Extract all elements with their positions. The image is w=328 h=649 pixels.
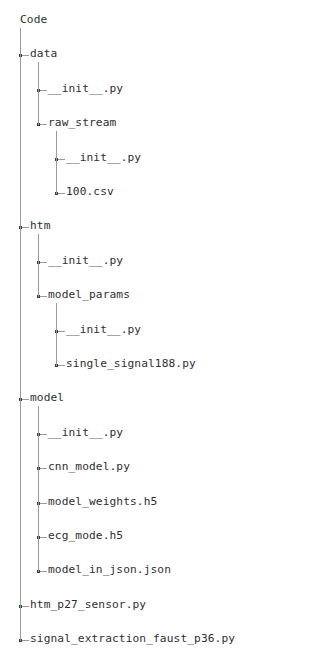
tree-node-label: raw_stream (48, 116, 116, 130)
tree-branch-dash-icon (57, 193, 65, 194)
tree-folder-node[interactable]: data (0, 47, 328, 81)
tree-file-node[interactable]: single_signal188.py (0, 357, 328, 391)
tree-file-node[interactable]: __init__.py (0, 323, 328, 357)
tree-trunk-line (38, 406, 39, 572)
tree-file-node[interactable]: signal_extraction_faust_p36.py (0, 632, 328, 649)
tree-branch-dash-icon (57, 159, 65, 160)
tree-file-node[interactable]: __init__.py (0, 151, 328, 185)
tree-trunk-line (56, 303, 57, 366)
tree-branch-dash-icon (39, 90, 47, 91)
tree-file-node[interactable]: model_in_json.json (0, 563, 328, 597)
tree-node-label: htm (30, 219, 51, 233)
tree-node-label: data (30, 47, 57, 61)
tree-trunk-line (56, 131, 57, 194)
tree-node-label: model_params (48, 288, 130, 302)
tree-file-node[interactable]: __init__.py (0, 82, 328, 116)
tree-root-node[interactable]: Code (0, 13, 328, 47)
tree-branch-dash-icon (21, 399, 29, 400)
tree-branch-dash-icon (21, 55, 29, 56)
tree-node-label: __init__.py (66, 323, 141, 337)
tree-branch-dash-icon (39, 434, 47, 435)
tree-node-label: 100.csv (66, 185, 114, 199)
tree-folder-node[interactable]: model (0, 391, 328, 425)
tree-file-node[interactable]: htm_p27_sensor.py (0, 598, 328, 632)
tree-branch-dash-icon (21, 640, 29, 641)
tree-branch-dash-icon (39, 468, 47, 469)
tree-trunk-line (38, 62, 39, 125)
tree-file-node[interactable]: 100.csv (0, 185, 328, 219)
tree-file-node[interactable]: ecg_mode.h5 (0, 529, 328, 563)
tree-node-label: ecg_mode.h5 (48, 529, 123, 543)
tree-branch-dash-icon (57, 365, 65, 366)
tree-node-label: signal_extraction_faust_p36.py (30, 632, 235, 646)
tree-node-label: Code (20, 13, 47, 27)
tree-branch-dash-icon (39, 537, 47, 538)
tree-node-label: __init__.py (48, 254, 123, 268)
tree-trunk-line (20, 28, 21, 641)
tree-file-node[interactable]: cnn_model.py (0, 460, 328, 494)
tree-node-label: __init__.py (48, 82, 123, 96)
tree-node-label: model_in_json.json (48, 563, 171, 577)
tree-node-label: htm_p27_sensor.py (30, 598, 146, 612)
tree-node-label: __init__.py (48, 426, 123, 440)
tree-branch-dash-icon (21, 606, 29, 607)
tree-folder-node[interactable]: htm (0, 219, 328, 253)
tree-branch-dash-icon (57, 331, 65, 332)
tree-branch-dash-icon (39, 296, 47, 297)
tree-trunk-line (38, 234, 39, 297)
tree-branch-dash-icon (21, 227, 29, 228)
tree-node-label: model_weights.h5 (48, 495, 157, 509)
tree-file-node[interactable]: model_weights.h5 (0, 495, 328, 529)
tree-file-node[interactable]: __init__.py (0, 254, 328, 288)
tree-branch-dash-icon (39, 124, 47, 125)
tree-branch-dash-icon (39, 571, 47, 572)
tree-folder-node[interactable]: raw_stream (0, 116, 328, 150)
tree-folder-node[interactable]: model_params (0, 288, 328, 322)
tree-file-node[interactable]: __init__.py (0, 426, 328, 460)
tree-node-label: model (30, 391, 64, 405)
tree-node-label: single_signal188.py (66, 357, 196, 371)
tree-branch-dash-icon (39, 503, 47, 504)
tree-node-label: cnn_model.py (48, 460, 130, 474)
tree-node-label: __init__.py (66, 151, 141, 165)
tree-branch-dash-icon (39, 262, 47, 263)
